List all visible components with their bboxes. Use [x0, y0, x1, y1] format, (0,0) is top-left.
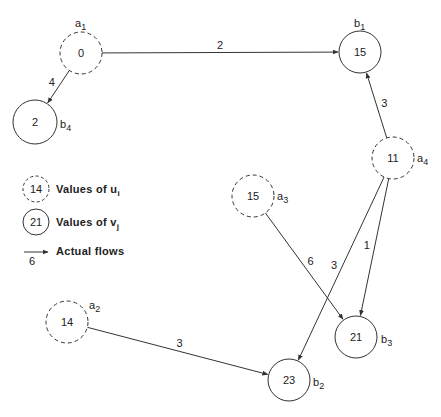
- nodes: 0a114a215a311a415b123b221b32b4: [13, 17, 428, 401]
- legend-v-text: Values of vj: [56, 216, 119, 231]
- node-label: a2: [89, 299, 100, 314]
- node-value: 0: [78, 47, 84, 59]
- network-diagram: 2433163 0a114a215a311a415b123b221b32b4 1…: [0, 0, 441, 417]
- node-label: b4: [60, 118, 71, 133]
- node-a4: 11a4: [372, 137, 428, 179]
- node-b3: 21b3: [335, 316, 392, 358]
- node-a3: 15a3: [232, 175, 288, 217]
- flow-arrow: [102, 52, 338, 53]
- legend-v-item: 21 Values of vj: [23, 209, 119, 235]
- node-value: 11: [387, 152, 398, 164]
- edge-a4-b1: 3: [367, 73, 388, 138]
- node-label: b1: [354, 17, 365, 32]
- edge-a1-b1: 2: [102, 39, 338, 53]
- node-a2: 14a2: [46, 299, 100, 343]
- node-label: a3: [277, 190, 288, 205]
- legend-flow-item: 6 Actual flows: [24, 245, 124, 267]
- node-label: b2: [313, 376, 324, 391]
- node-b4: 2b4: [13, 100, 71, 144]
- legend-u-text: Values of ui: [56, 183, 120, 198]
- flow-value: 6: [308, 255, 314, 267]
- node-b2: 23b2: [268, 359, 324, 401]
- flow-value: 4: [49, 76, 55, 88]
- node-label: b3: [381, 333, 392, 348]
- node-value: 15: [354, 46, 366, 58]
- legend-u-sample: 14: [30, 183, 42, 195]
- node-value: 21: [350, 331, 362, 343]
- flow-arrow: [87, 327, 267, 374]
- legend-flow-sample: 6: [29, 255, 35, 267]
- node-value: 2: [32, 116, 38, 128]
- flow-value: 3: [331, 259, 337, 271]
- flow-value: 3: [176, 337, 182, 349]
- node-b1: 15b1: [339, 17, 381, 73]
- flow-value: 1: [364, 239, 370, 251]
- flow-value: 3: [381, 97, 387, 109]
- edge-a1-b4: 4: [48, 70, 70, 102]
- edge-a4-b3: 1: [360, 179, 388, 316]
- node-value: 23: [283, 374, 295, 386]
- node-value: 15: [247, 190, 259, 202]
- legend: 14 Values of ui 21 Values of vj 6 Actual…: [23, 176, 124, 267]
- flow-value: 2: [217, 39, 223, 51]
- flow-edges: 2433163: [48, 39, 389, 375]
- legend-v-sample: 21: [30, 216, 42, 228]
- node-label: a4: [417, 152, 428, 167]
- node-label: a1: [75, 17, 86, 32]
- node-a1: 0a1: [60, 17, 102, 74]
- legend-u-item: 14 Values of ui: [23, 176, 120, 202]
- edge-a2-b2: 3: [87, 327, 267, 374]
- legend-flow-text: Actual flows: [56, 245, 124, 257]
- node-value: 14: [61, 316, 73, 328]
